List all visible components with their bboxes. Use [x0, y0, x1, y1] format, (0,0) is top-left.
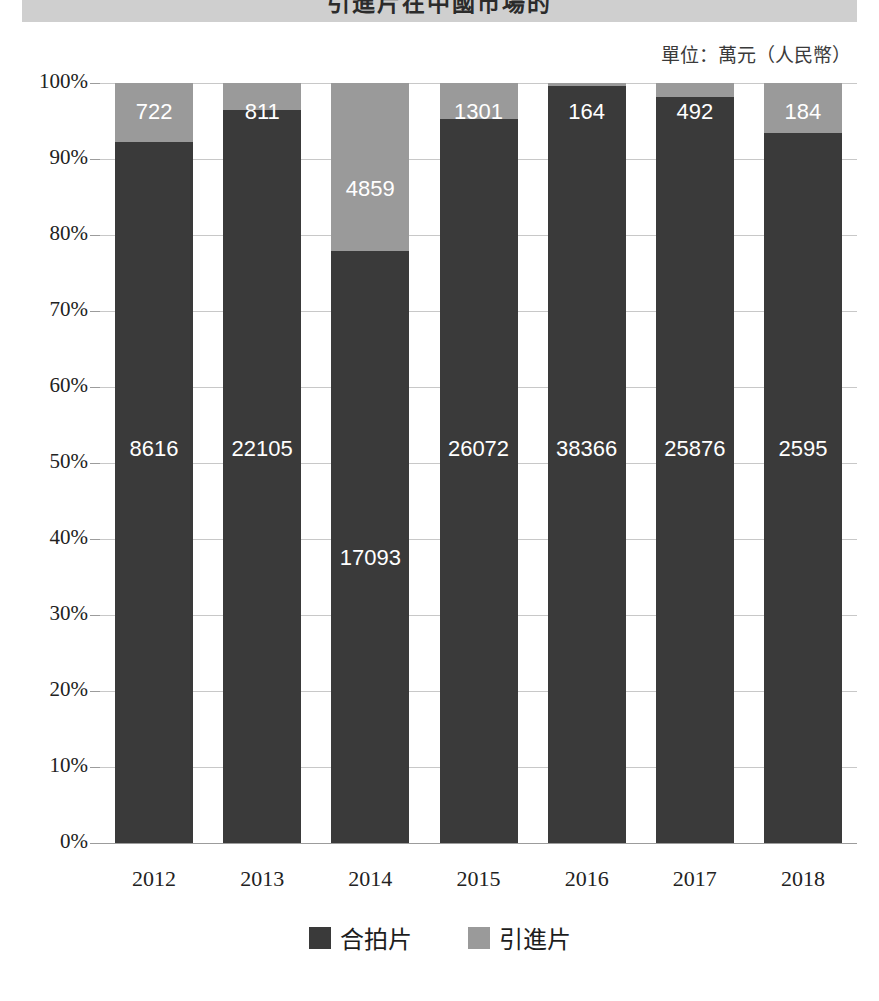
plot-area: 8616722221058111709348592607213013836616… — [100, 83, 857, 843]
legend-item-imported[interactable]: 引進片 — [468, 920, 571, 955]
x-axis-tick-label-2015: 2015 — [424, 866, 532, 892]
y-axis-tick-label: 0% — [0, 829, 88, 854]
y-axis-tick-mark — [90, 311, 100, 312]
y-axis-tick-mark — [90, 691, 100, 692]
bar-label-imported: 811 — [223, 101, 301, 123]
bar-segment-co-production[interactable] — [223, 110, 301, 843]
bar-group-2016[interactable]: 38366164 — [548, 83, 626, 843]
bar-label-imported: 184 — [764, 101, 842, 123]
legend-swatch-co-production — [309, 927, 331, 949]
bar-group-2012[interactable]: 8616722 — [115, 83, 193, 843]
chart-title-band: 引進片在中國市場的 — [22, 0, 857, 22]
y-axis-tick-mark — [90, 615, 100, 616]
bar-label-co-production: 17093 — [331, 547, 409, 569]
unit-caption: 單位：萬元（人民幣） — [661, 40, 851, 67]
y-axis-tick-label: 90% — [0, 145, 88, 170]
bar-segment-co-production[interactable] — [764, 133, 842, 843]
bar-group-2017[interactable]: 25876492 — [656, 83, 734, 843]
bar-segment-co-production[interactable] — [656, 97, 734, 843]
bar-label-imported: 722 — [115, 101, 193, 123]
bar-group-2013[interactable]: 22105811 — [223, 83, 301, 843]
legend-swatch-imported — [468, 927, 490, 949]
y-axis-tick-label: 50% — [0, 449, 88, 474]
bar-label-co-production: 25876 — [656, 438, 734, 460]
bar-label-imported: 492 — [656, 101, 734, 123]
y-axis-tick-mark — [90, 463, 100, 464]
bar-segment-co-production[interactable] — [115, 142, 193, 843]
bar-label-co-production: 2595 — [764, 438, 842, 460]
bar-label-co-production: 26072 — [440, 438, 518, 460]
x-axis-tick-label-2018: 2018 — [749, 866, 857, 892]
y-axis-tick-mark — [90, 387, 100, 388]
chart-legend: 合拍片引進片 — [0, 920, 879, 955]
bar-segment-imported[interactable] — [331, 83, 409, 251]
legend-label: 合拍片 — [340, 920, 412, 955]
x-axis-tick-label-2014: 2014 — [316, 866, 424, 892]
x-axis-tick-label-2013: 2013 — [208, 866, 316, 892]
bar-group-2015[interactable]: 260721301 — [440, 83, 518, 843]
bar-label-imported: 4859 — [331, 178, 409, 200]
y-axis-tick-label: 30% — [0, 601, 88, 626]
x-axis-tick-label-2012: 2012 — [100, 866, 208, 892]
y-axis-tick-label: 40% — [0, 525, 88, 550]
bar-series-container: 8616722221058111709348592607213013836616… — [100, 83, 857, 843]
bar-group-2018[interactable]: 2595184 — [764, 83, 842, 843]
legend-item-co-production[interactable]: 合拍片 — [309, 920, 412, 955]
y-axis-tick-mark — [90, 539, 100, 540]
bar-label-co-production: 22105 — [223, 438, 301, 460]
bar-segment-co-production[interactable] — [440, 119, 518, 843]
x-axis-tick-label-2017: 2017 — [641, 866, 749, 892]
y-axis-tick-mark — [90, 767, 100, 768]
y-axis-tick-mark — [90, 159, 100, 160]
y-axis-tick-label: 60% — [0, 373, 88, 398]
y-axis-tick-mark — [90, 843, 100, 844]
chart-title: 引進片在中國市場的 — [22, 0, 857, 18]
gridline — [100, 843, 857, 844]
bar-segment-imported[interactable] — [548, 83, 626, 86]
y-axis-tick-label: 70% — [0, 297, 88, 322]
y-axis-tick-label: 80% — [0, 221, 88, 246]
y-axis-tick-label: 10% — [0, 753, 88, 778]
bar-label-co-production: 8616 — [115, 438, 193, 460]
bar-label-imported: 1301 — [440, 101, 518, 123]
y-axis-tick-label: 20% — [0, 677, 88, 702]
x-axis-tick-label-2016: 2016 — [533, 866, 641, 892]
y-axis-tick-label: 100% — [0, 69, 88, 94]
y-axis-tick-mark — [90, 83, 100, 84]
bar-group-2014[interactable]: 170934859 — [331, 83, 409, 843]
bar-segment-imported[interactable] — [656, 83, 734, 97]
legend-label: 引進片 — [499, 920, 571, 955]
bar-label-co-production: 38366 — [548, 438, 626, 460]
bar-segment-co-production[interactable] — [548, 86, 626, 843]
bar-label-imported: 164 — [548, 101, 626, 123]
y-axis-tick-mark — [90, 235, 100, 236]
